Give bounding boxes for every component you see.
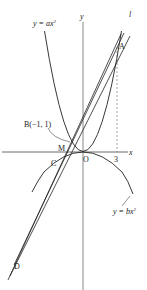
point-C-label: C: [51, 159, 56, 168]
parabola-lower-ext-left: [32, 172, 44, 192]
curve-lower-label: y = bx2: [112, 207, 137, 216]
point-M-label: M: [58, 144, 65, 153]
y-axis-label: y: [79, 12, 84, 21]
point-D-label: D: [14, 262, 20, 271]
line-l-label: l: [129, 10, 132, 19]
tick-3-label: 3: [114, 155, 118, 164]
origin-label: O: [83, 155, 89, 164]
coordinate-diagram: y = ax2 y l A B(−1, 1) M C O 3 x D y = b…: [0, 0, 147, 290]
line-OA: [8, 34, 121, 280]
point-A-label: A: [119, 42, 125, 51]
line-OD-extended: [14, 33, 124, 265]
x-axis-label: x: [128, 148, 133, 157]
curve-upper-label: y = ax2: [32, 19, 57, 28]
parabola-lower-ext: [122, 172, 133, 194]
leader-lower-curve: [122, 196, 130, 206]
line-l: [10, 36, 130, 276]
point-B-label: B(−1, 1): [24, 120, 52, 129]
